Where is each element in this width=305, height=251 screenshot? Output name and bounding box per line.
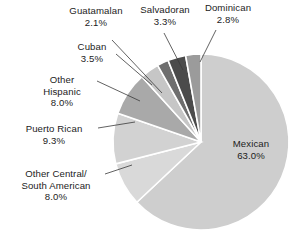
leader-line-cuban [116,54,152,85]
slice-label-guatamalan-name: Guatamalan [58,5,134,17]
slice-label-dominican: Dominican 2.8% [196,2,260,25]
slice-label-mexican-name: Mexican [222,138,280,150]
slice-label-dominican-pct: 2.8% [196,14,260,26]
slice-label-salvadoran-pct: 3.3% [136,16,194,28]
slice-label-other-hispanic: Other Hispanic 8.0% [28,74,96,109]
slice-label-other-csa-name2: South American [8,180,104,192]
pie-chart-figure: Guatamalan 2.1% Salvadoran 3.3% Dominica… [0,0,305,251]
slice-label-mexican: Mexican 63.0% [222,138,280,161]
slice-label-dominican-name: Dominican [196,2,260,14]
slice-label-other-csa-name: Other Central/ [8,168,104,180]
slice-label-cuban-pct: 3.5% [66,53,118,65]
slice-label-cuban-name: Cuban [66,41,118,53]
slice-label-guatamalan-pct: 2.1% [58,17,134,29]
slice-label-puerto-rican-name: Puerto Rican [12,123,96,135]
slice-label-puerto-rican-pct: 9.3% [12,135,96,147]
slice-label-other-hispanic-pct: 8.0% [28,97,96,109]
slice-label-puerto-rican: Puerto Rican 9.3% [12,123,96,146]
slice-label-guatamalan: Guatamalan 2.1% [58,5,134,28]
slice-label-salvadoran: Salvadoran 3.3% [136,4,194,27]
slice-label-other-csa: Other Central/ South American 8.0% [8,168,104,203]
slice-label-mexican-pct: 63.0% [222,150,280,162]
slice-label-other-hispanic-name2: Hispanic [28,86,96,98]
slice-label-other-csa-pct: 8.0% [8,191,104,203]
slice-label-cuban: Cuban 3.5% [66,41,118,64]
slice-label-salvadoran-name: Salvadoran [136,4,194,16]
slice-label-other-hispanic-name: Other [28,74,96,86]
